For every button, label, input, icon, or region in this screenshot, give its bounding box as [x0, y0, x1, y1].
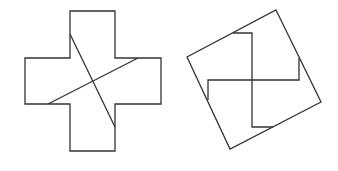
- square-figure: [187, 10, 321, 149]
- pinwheel-line: [252, 80, 273, 127]
- cross-cut-line: [70, 34, 115, 127]
- cross-cut-line: [48, 58, 138, 104]
- pinwheel-line: [252, 58, 299, 80]
- pinwheel-line: [233, 33, 252, 80]
- cross-figure: [25, 11, 161, 151]
- dissection-figure: [0, 0, 338, 171]
- pinwheel-line: [208, 80, 252, 100]
